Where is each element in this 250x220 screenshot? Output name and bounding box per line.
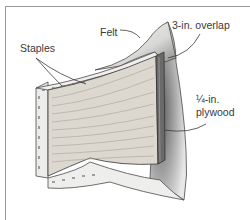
felt-left-wrap xyxy=(36,82,48,178)
label-staples: Staples xyxy=(20,42,55,54)
label-overlap: 3-in. overlap xyxy=(172,19,230,31)
label-plywood-thickness: ¼-in. xyxy=(196,93,219,105)
label-plywood: plywood xyxy=(196,106,235,118)
plywood-edge xyxy=(156,52,165,164)
label-felt: Felt xyxy=(100,26,118,38)
